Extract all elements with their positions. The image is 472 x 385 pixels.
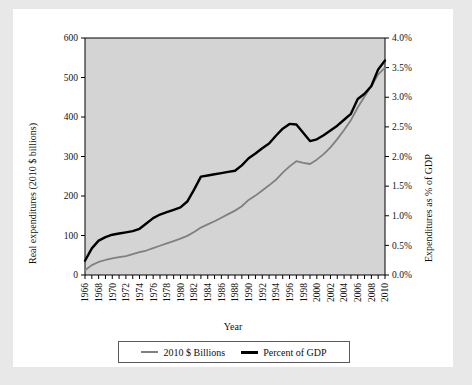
x-axis-tick-label: 1996 [285,283,295,302]
x-axis-tick-label: 1974 [135,283,145,302]
y-axis-right-tick-label: 3.5% [392,63,412,73]
y-axis-right-tick-label: 0.0% [392,270,412,280]
y-axis-right-tick-label: 4.0% [392,33,412,43]
y-axis-right-title: Expenditures as % of GDP [423,154,434,262]
x-axis-tick-label: 2006 [353,283,363,302]
legend-item-dollars: 2010 $ Billions [141,347,225,358]
x-axis-tick-label: 1986 [217,283,227,302]
x-axis-tick-label: 1982 [189,283,199,302]
x-axis-tick-label: 2008 [367,283,377,302]
legend-label-gdp: Percent of GDP [263,347,326,358]
x-axis-tick-label: 1972 [121,283,131,302]
y-axis-left-tick-label: 100 [64,231,79,241]
legend-item-gdp: Percent of GDP [241,347,326,358]
y-axis-left-title: Real expenditures (2010 $ billions) [27,123,38,264]
y-axis-right-tick-label: 1.5% [392,181,412,191]
chart-figure: 01002003004005006000.0%0.5%1.0%1.5%2.0%2… [13,9,453,367]
x-axis-tick-label: 1970 [108,283,118,302]
y-axis-right-tick-label: 2.0% [392,152,412,162]
x-axis-tick-label: 1988 [230,283,240,302]
y-axis-right-tick-label: 3.0% [392,92,412,102]
x-axis-tick-label: 1968 [94,283,104,302]
y-axis-left-tick-label: 400 [64,112,79,122]
x-axis-tick-label: 2002 [326,283,336,302]
chart-plot-area: 01002003004005006000.0%0.5%1.0%1.5%2.0%2… [13,9,453,367]
y-axis-right-tick-label: 1.0% [392,211,412,221]
x-axis-tick-label: 1994 [271,283,281,302]
x-axis-tick-label: 1992 [258,283,268,302]
legend-line-gray-icon [141,351,158,353]
y-axis-left-tick-label: 0 [73,270,78,280]
y-axis-right-tick-label: 0.5% [392,241,412,251]
page-background: 01002003004005006000.0%0.5%1.0%1.5%2.0%2… [0,0,472,385]
x-axis-tick-label: 2004 [339,283,349,302]
figure-card: 01002003004005006000.0%0.5%1.0%1.5%2.0%2… [13,9,453,367]
x-axis-tick-label: 1976 [149,283,159,302]
x-axis-tick-label: 1980 [176,283,186,302]
y-axis-left-tick-label: 600 [64,33,79,43]
x-axis-tick-label: 1966 [80,283,90,302]
chart-legend: 2010 $ Billions Percent of GDP [118,341,350,363]
x-axis-tick-label: 2000 [312,283,322,302]
x-axis-tick-label: 2010 [380,283,390,302]
y-axis-right-tick-label: 2.5% [392,122,412,132]
x-axis-title: Year [13,321,453,332]
x-axis-tick-label: 1978 [162,283,172,302]
x-axis-tick-label: 1984 [203,283,213,302]
x-axis-tick-label: 1990 [244,283,254,302]
x-axis-tick-label: 1998 [299,283,309,302]
y-axis-left-tick-label: 200 [64,191,79,201]
y-axis-left-tick-label: 300 [64,152,79,162]
y-axis-left-tick-label: 500 [64,73,79,83]
legend-label-dollars: 2010 $ Billions [163,347,225,358]
legend-line-black-icon [241,351,258,354]
